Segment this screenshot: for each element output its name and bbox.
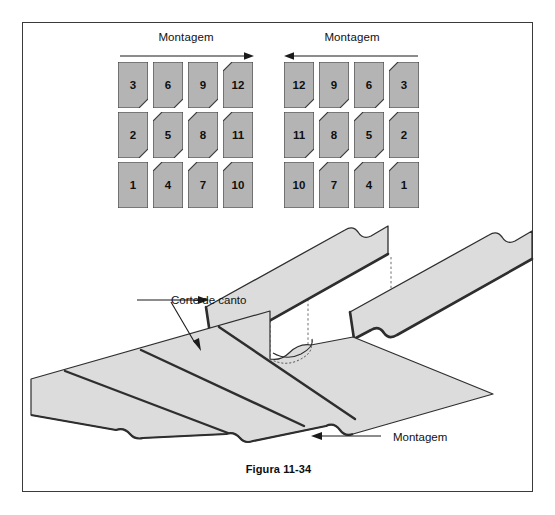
tile-6[interactable]: 6 [354, 62, 384, 108]
tile-row: 36912 [118, 60, 254, 110]
tile-number: 3 [389, 62, 419, 108]
tile-grid-left-rows: 369122581114710 [118, 60, 254, 210]
figure-frame: Montagem 369122581114710 Montagem 129631… [22, 22, 533, 492]
tile-11[interactable]: 11 [223, 112, 253, 158]
tile-row: 11852 [284, 110, 420, 160]
tile-1[interactable]: 1 [118, 162, 148, 208]
tile-7[interactable]: 7 [319, 162, 349, 208]
tile-number: 8 [319, 112, 349, 158]
tile-number: 3 [118, 62, 148, 108]
tile-number: 5 [354, 112, 384, 158]
tile-2[interactable]: 2 [389, 112, 419, 158]
tile-number: 4 [153, 162, 183, 208]
tile-5[interactable]: 5 [354, 112, 384, 158]
assembly-direction-label: Montagem [393, 431, 447, 443]
tile-number: 7 [188, 162, 218, 208]
tile-number: 10 [223, 162, 253, 208]
tile-number: 11 [223, 112, 253, 158]
tile-number: 1 [118, 162, 148, 208]
tile-number: 6 [153, 62, 183, 108]
tile-1[interactable]: 1 [389, 162, 419, 208]
tile-row: 12963 [284, 60, 420, 110]
tile-row: 10741 [284, 160, 420, 210]
tile-grid-right-rows: 129631185210741 [284, 60, 420, 210]
tile-3[interactable]: 3 [389, 62, 419, 108]
tile-number: 12 [284, 62, 314, 108]
tile-number: 9 [188, 62, 218, 108]
tile-number: 9 [319, 62, 349, 108]
tile-number: 12 [223, 62, 253, 108]
corrugated-panel-illustration [23, 219, 534, 444]
tile-number: 5 [153, 112, 183, 158]
tile-number: 7 [319, 162, 349, 208]
panel-lower-main [31, 311, 493, 442]
tile-2[interactable]: 2 [118, 112, 148, 158]
tile-8[interactable]: 8 [319, 112, 349, 158]
tile-7[interactable]: 7 [188, 162, 218, 208]
tile-number: 4 [354, 162, 384, 208]
direction-label-left: Montagem [118, 31, 254, 43]
tile-number: 8 [188, 112, 218, 158]
tile-11[interactable]: 11 [284, 112, 314, 158]
tile-5[interactable]: 5 [153, 112, 183, 158]
tile-10[interactable]: 10 [284, 162, 314, 208]
tile-4[interactable]: 4 [354, 162, 384, 208]
tile-number: 1 [389, 162, 419, 208]
figure-caption: Figura 11-34 [23, 463, 534, 475]
tile-10[interactable]: 10 [223, 162, 253, 208]
tile-row: 14710 [118, 160, 254, 210]
tile-6[interactable]: 6 [153, 62, 183, 108]
direction-label-right: Montagem [284, 31, 420, 43]
tile-12[interactable]: 12 [223, 62, 253, 108]
tile-3[interactable]: 3 [118, 62, 148, 108]
tile-row: 25811 [118, 110, 254, 160]
tile-number: 2 [118, 112, 148, 158]
tile-12[interactable]: 12 [284, 62, 314, 108]
tile-layout-diagrams: Montagem 369122581114710 Montagem 129631… [23, 23, 534, 223]
tile-number: 2 [389, 112, 419, 158]
tile-number: 6 [354, 62, 384, 108]
tile-9[interactable]: 9 [188, 62, 218, 108]
tile-number: 11 [284, 112, 314, 158]
tile-4[interactable]: 4 [153, 162, 183, 208]
tile-number: 10 [284, 162, 314, 208]
tile-8[interactable]: 8 [188, 112, 218, 158]
corner-cut-label: Corte de canto [171, 294, 246, 306]
tile-9[interactable]: 9 [319, 62, 349, 108]
